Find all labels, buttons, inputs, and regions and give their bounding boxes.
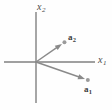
vector-a2-label-base: a [68,32,73,42]
x1-axis-label: x1 [98,55,106,65]
vector-diagram-figure: x2 x1 a2 a1 [0,0,112,110]
vector-a1-endpoint-dot [86,78,90,82]
vector-a1-label: a1 [84,85,92,94]
x1-axis-label-sub: 1 [103,59,107,67]
vector-a2-endpoint-dot [62,40,66,44]
vector-a1-shaft [36,62,81,78]
vector-a1-arrow [36,62,90,82]
vector-a2-arrowhead [55,44,62,50]
vector-a2-arrow [36,40,66,62]
x2-axis-label-base: x [37,1,41,12]
vector-a1-arrowhead [78,74,85,79]
vector-a1-label-sub: 1 [89,88,92,95]
vector-a2-label-sub: 2 [73,36,76,43]
x1-axis-label-base: x [98,54,102,65]
x2-axis-label: x2 [37,2,45,12]
vector-a1-label-base: a [84,84,89,94]
vector-a2-label: a2 [68,33,76,42]
diagram-canvas [0,0,112,110]
x2-axis-label-sub: 2 [42,6,46,14]
vector-a2-shaft [36,46,59,62]
